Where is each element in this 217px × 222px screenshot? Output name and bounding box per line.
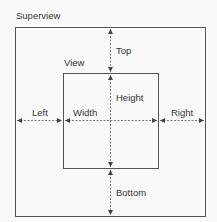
left-label: Left <box>32 108 48 118</box>
view-label: View <box>64 58 84 68</box>
bottom-label: Bottom <box>116 188 146 198</box>
view-box <box>64 74 159 169</box>
top-label: Top <box>116 46 131 56</box>
height-label: Height <box>116 93 143 103</box>
width-label: Width <box>73 108 97 118</box>
superview-label: Superview <box>16 11 60 21</box>
right-label: Right <box>171 108 193 118</box>
